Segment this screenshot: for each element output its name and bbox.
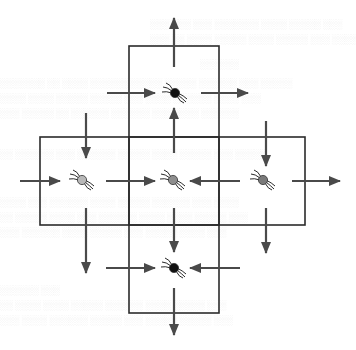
spider-grid-diagram [0, 0, 356, 350]
spider-icon-bottom [161, 258, 186, 278]
spider-icon-top [162, 83, 187, 103]
spider-icon-left [69, 170, 94, 190]
spider-icon-right [250, 170, 275, 190]
movement-arrows [20, 18, 340, 335]
spiders [69, 83, 275, 278]
diagram-canvas: ░░░ ░░░ ░░░ ░░░░░░░ ░░░░ ░░░░░ ░░░ ░░░ ░… [0, 0, 356, 350]
spider-icon-center [160, 170, 185, 190]
